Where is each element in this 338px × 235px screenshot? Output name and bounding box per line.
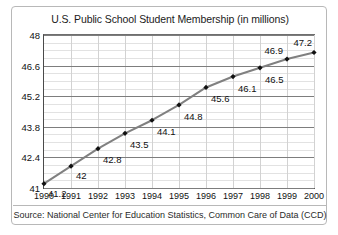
data-point-label: 47.2 (294, 37, 313, 48)
data-series-line (44, 35, 314, 188)
series-path (44, 52, 314, 183)
x-axis-tick-label: 1996 (196, 191, 216, 201)
source-note: Source: National Center for Education St… (12, 210, 328, 220)
data-point-label: 41.2 (48, 187, 67, 198)
y-axis-tick-label: 43.8 (22, 121, 41, 132)
data-point-label: 46.5 (265, 73, 284, 84)
chart-card: U.S. Public School Student Membership (i… (11, 6, 327, 225)
x-axis-tick-label: 1999 (277, 191, 297, 201)
y-axis-tick-label: 41 (29, 183, 40, 194)
data-point-label: 46.1 (238, 82, 257, 93)
y-axis-tick-label: 42.4 (22, 152, 41, 163)
y-axis-tick-label: 46.6 (22, 60, 41, 71)
plot-area: 1990199119921993199419951996199719981999… (43, 34, 315, 189)
plot-wrapper: 1990199119921993199419951996199719981999… (12, 7, 328, 226)
y-axis-tick-label: 48 (29, 30, 40, 41)
data-point-label: 45.6 (211, 93, 230, 104)
gridline-horizontal-major (44, 188, 314, 189)
x-axis-tick-label: 1998 (250, 191, 270, 201)
data-point-label: 44.8 (184, 110, 203, 121)
data-point-label: 46.9 (265, 45, 284, 56)
data-point-marker (311, 50, 316, 55)
data-point-label: 42.8 (103, 153, 122, 164)
data-point-marker (257, 65, 262, 70)
data-point-marker (230, 74, 235, 79)
x-axis-tick-label: 1993 (115, 191, 135, 201)
x-axis-tick-label: 1992 (88, 191, 108, 201)
y-axis-tick-label: 45.2 (22, 91, 41, 102)
gridline-vertical (314, 35, 315, 188)
data-point-marker (284, 56, 289, 61)
source-divider (13, 205, 327, 206)
x-axis-tick-label: 1997 (223, 191, 243, 201)
data-point-label: 42 (76, 170, 87, 181)
data-point-label: 43.5 (130, 139, 149, 150)
data-point-label: 44.1 (157, 126, 176, 137)
x-axis-tick-label: 2000 (304, 191, 324, 201)
x-axis-tick-label: 1994 (142, 191, 162, 201)
x-axis-tick-label: 1995 (169, 191, 189, 201)
